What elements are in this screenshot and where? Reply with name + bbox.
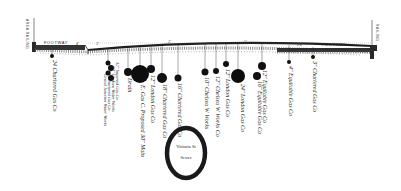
street-section-diagram: AREA RAILING RAILING FOOTWAY FOOTWAY 4' … <box>0 0 401 191</box>
left-footway-label: FOOTWAY <box>44 40 68 45</box>
sewer-label-line1: Victoria St <box>170 144 202 149</box>
measurement: 3' <box>96 41 99 46</box>
measurement: 3' <box>168 39 171 44</box>
pipe-label: 24" London Gas Co <box>240 84 246 132</box>
section-drawing <box>0 0 401 191</box>
pipe-label: 12" London Gas Co <box>150 75 156 123</box>
sewer-label-line2: Sewer <box>170 155 202 160</box>
pipe-label: 3" Chartered Gas Co <box>312 61 318 112</box>
pipe-label: 16" Equitable Gas Co <box>257 81 263 134</box>
measurement: 5' <box>244 39 247 44</box>
right-railing-label: RAILING <box>375 24 379 42</box>
pipe-label: E. Gas C. Proposed 30" Main <box>140 85 146 157</box>
pipe-label: 12" London Gas Co <box>225 69 231 117</box>
measurement: 4' <box>76 41 79 46</box>
sewer-shape <box>167 128 205 178</box>
pipe-label: 24 Chartered Gas Co <box>52 60 58 112</box>
right-footway-label: FOOTWAY <box>322 42 346 47</box>
pipe-label: Grand Junction Water Works <box>102 74 108 126</box>
pipe-label: 18" Chartered Gas Co <box>162 84 168 138</box>
left-railing-label: AREA RAILING <box>25 19 29 49</box>
pipe-label: Drain <box>127 78 133 92</box>
pipe-label: 16" Chartered Gas Co <box>177 83 183 137</box>
pipe-label: 4" Equitable Gas Co <box>288 66 294 116</box>
measurement: 2'6" <box>297 42 304 47</box>
pipe-label: 12" Chelsea W Works Co <box>215 76 221 137</box>
pipe-label: 10" Chelsea W Works <box>204 77 210 129</box>
